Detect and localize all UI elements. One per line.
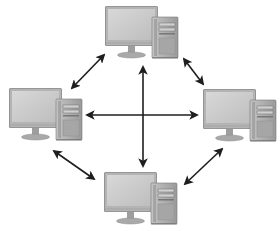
mesh-network-diagram xyxy=(0,0,280,231)
